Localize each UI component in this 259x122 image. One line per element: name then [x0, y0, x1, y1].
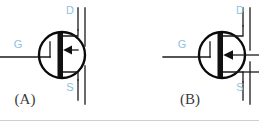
- body-arrow-a: [63, 46, 72, 55]
- terminal-label-source-b: S: [236, 81, 243, 93]
- body-arrow-b: [223, 50, 233, 59]
- channel-bar-a: [58, 33, 64, 77]
- figure-canvas: D G S (A): [0, 0, 259, 122]
- mosfet-symbol-a: D G S (A): [0, 4, 85, 109]
- terminal-label-gate-b: G: [178, 38, 187, 50]
- panel-caption-b: (B): [180, 91, 200, 108]
- mosfet-figure: D G S (A): [0, 0, 259, 122]
- terminal-label-gate-a: G: [14, 38, 23, 50]
- channel-bar-b: [218, 33, 224, 77]
- panel-caption-a: (A): [15, 91, 36, 108]
- terminal-label-drain-a: D: [66, 4, 74, 16]
- terminal-label-source-a: S: [66, 81, 73, 93]
- mosfet-symbol-b: D G S (B): [163, 4, 259, 109]
- terminal-label-drain-b: D: [236, 4, 244, 16]
